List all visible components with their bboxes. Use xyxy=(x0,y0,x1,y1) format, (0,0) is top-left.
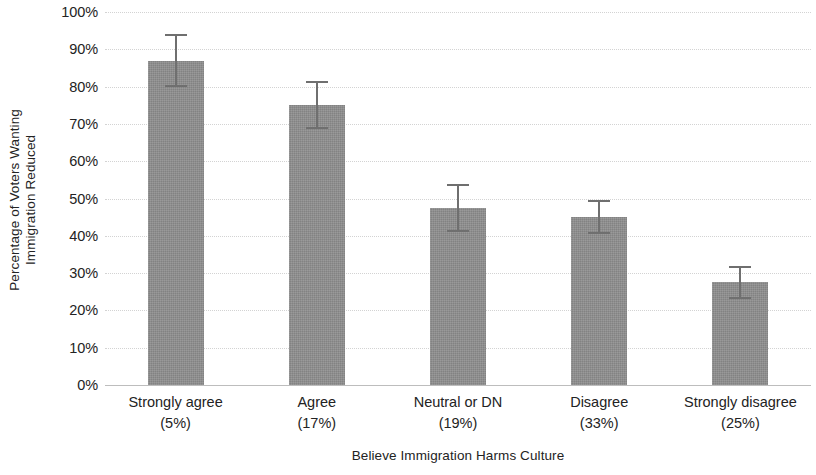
x-axis-tick-label: Agree(17%) xyxy=(246,392,387,434)
y-axis-tick-label: 0% xyxy=(40,377,98,393)
error-bar-stem xyxy=(739,266,741,300)
plot-area xyxy=(105,12,811,385)
error-bar-cap-top xyxy=(729,266,751,268)
x-axis-tick-label: Neutral or DN(19%) xyxy=(387,392,528,434)
y-axis-tick-label: 70% xyxy=(40,116,98,132)
y-axis-tick-labels: 100%90%80%70%60%50%40%30%20%10%0% xyxy=(36,0,98,475)
error-bar xyxy=(729,266,751,300)
x-axis-tick-label-category: Neutral or DN xyxy=(414,394,503,410)
y-axis-tick-label: 80% xyxy=(40,79,98,95)
x-axis-title: Believe Immigration Harms Culture xyxy=(105,448,811,463)
error-bar xyxy=(447,184,469,232)
gridline xyxy=(105,385,811,386)
error-bar-cap-top xyxy=(306,81,328,83)
x-axis-tick-label-share: (33%) xyxy=(529,413,670,434)
y-axis-tick-label: 100% xyxy=(40,4,98,20)
bar xyxy=(148,61,204,386)
error-bar-cap-bottom xyxy=(165,85,187,87)
y-axis-tick-label: 10% xyxy=(40,340,98,356)
y-axis-tick-label: 50% xyxy=(40,191,98,207)
x-axis-tick-label-share: (17%) xyxy=(246,413,387,434)
x-axis-tick-label-share: (5%) xyxy=(105,413,246,434)
y-axis-tick-label: 90% xyxy=(40,41,98,57)
bar-group xyxy=(105,12,246,385)
error-bar-stem xyxy=(316,81,318,129)
error-bar-cap-top xyxy=(588,200,610,202)
x-axis-tick-label: Strongly disagree(25%) xyxy=(670,392,811,434)
bar-group xyxy=(670,12,811,385)
x-axis-tick-label-category: Disagree xyxy=(570,394,628,410)
error-bar-cap-top xyxy=(447,184,469,186)
error-bar xyxy=(306,81,328,129)
error-bar xyxy=(588,200,610,234)
y-axis-tick-label: 60% xyxy=(40,153,98,169)
y-axis-tick-label: 40% xyxy=(40,228,98,244)
error-bar xyxy=(165,34,187,86)
x-axis-tick-label: Strongly agree(5%) xyxy=(105,392,246,434)
x-axis-tick-labels: Strongly agree(5%)Agree(17%)Neutral or D… xyxy=(105,392,811,440)
error-bar-cap-bottom xyxy=(729,297,751,299)
x-axis-tick-label-category: Agree xyxy=(297,394,336,410)
y-axis-title-line-1: Percentage of Voters Wanting xyxy=(7,109,23,291)
bar-group xyxy=(387,12,528,385)
y-axis-tick-label: 30% xyxy=(40,265,98,281)
x-axis-tick-label-share: (25%) xyxy=(670,413,811,434)
bar xyxy=(430,208,486,385)
bar-group xyxy=(529,12,670,385)
x-axis-tick-label-share: (19%) xyxy=(387,413,528,434)
x-axis-tick-label-category: Strongly disagree xyxy=(684,394,797,410)
bar xyxy=(571,217,627,385)
error-bar-cap-bottom xyxy=(306,127,328,129)
error-bar-cap-top xyxy=(165,34,187,36)
error-bar-cap-bottom xyxy=(447,230,469,232)
x-axis-tick-label-category: Strongly agree xyxy=(128,394,222,410)
error-bar-cap-bottom xyxy=(588,232,610,234)
bar xyxy=(289,105,345,385)
x-axis-tick-label: Disagree(33%) xyxy=(529,392,670,434)
error-bar-stem xyxy=(457,184,459,232)
error-bar-stem xyxy=(175,34,177,86)
y-axis-tick-label: 20% xyxy=(40,302,98,318)
bar-chart: Percentage of Voters Wanting Immigration… xyxy=(0,0,816,475)
bar-group xyxy=(246,12,387,385)
error-bar-stem xyxy=(598,200,600,234)
